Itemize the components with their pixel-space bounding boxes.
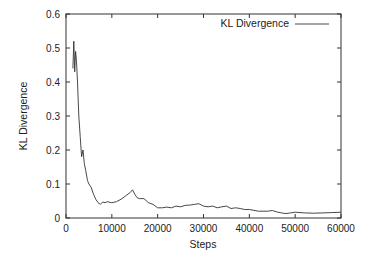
y-tick-label: 0.1 xyxy=(46,179,60,190)
x-tick-label: 20000 xyxy=(144,223,172,234)
legend-label: KL Divergence xyxy=(221,17,290,29)
plot-frame xyxy=(66,14,341,218)
x-axis-label: Steps xyxy=(190,238,217,250)
y-tick-label: 0.5 xyxy=(46,43,60,54)
y-tick-label: 0.4 xyxy=(46,77,60,88)
x-tick-label: 10000 xyxy=(98,223,126,234)
tick-labels: 010000200003000040000500006000000.10.20.… xyxy=(46,9,355,235)
plot-border xyxy=(66,14,341,218)
x-tick-label: 30000 xyxy=(190,223,218,234)
y-tick-label: 0.2 xyxy=(46,145,60,156)
y-tick-label: 0 xyxy=(54,213,60,224)
x-tick-label: 50000 xyxy=(281,223,309,234)
legend: KL Divergence xyxy=(221,17,329,29)
x-tick-label: 0 xyxy=(63,223,69,234)
x-tick-label: 60000 xyxy=(327,223,355,234)
y-tick-label: 0.6 xyxy=(46,9,60,20)
y-tick-label: 0.3 xyxy=(46,111,60,122)
x-tick-label: 40000 xyxy=(235,223,263,234)
kl-divergence-chart: 010000200003000040000500006000000.10.20.… xyxy=(0,0,371,264)
kl-divergence-line xyxy=(73,41,341,213)
y-axis-label: KL Divergence xyxy=(17,82,29,151)
axis-ticks xyxy=(66,14,341,218)
